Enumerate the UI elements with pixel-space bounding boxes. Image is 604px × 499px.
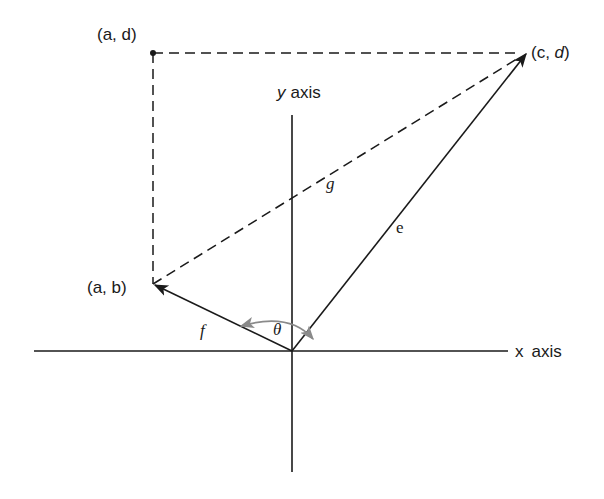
point-cd-label: (c, d) xyxy=(531,43,570,62)
y-axis-label: yaxis xyxy=(276,83,321,102)
angle-theta-label: θ xyxy=(273,320,281,339)
x-axis-label: xaxis xyxy=(515,342,562,361)
vector-f xyxy=(155,285,292,351)
point-ad-label: (a, d) xyxy=(97,25,137,44)
vector-e-label: e xyxy=(396,218,404,237)
vector-f-label: f xyxy=(200,321,207,340)
vector-e xyxy=(292,54,526,351)
vector-diagram: (a, d) (c, d) (a, b) yaxis xaxis g e f θ xyxy=(0,0,604,499)
point-ab-label: (a, b) xyxy=(87,278,127,297)
point-ad-dot xyxy=(150,50,156,56)
vector-g-dashed xyxy=(153,57,520,284)
vector-g-label: g xyxy=(326,174,335,193)
